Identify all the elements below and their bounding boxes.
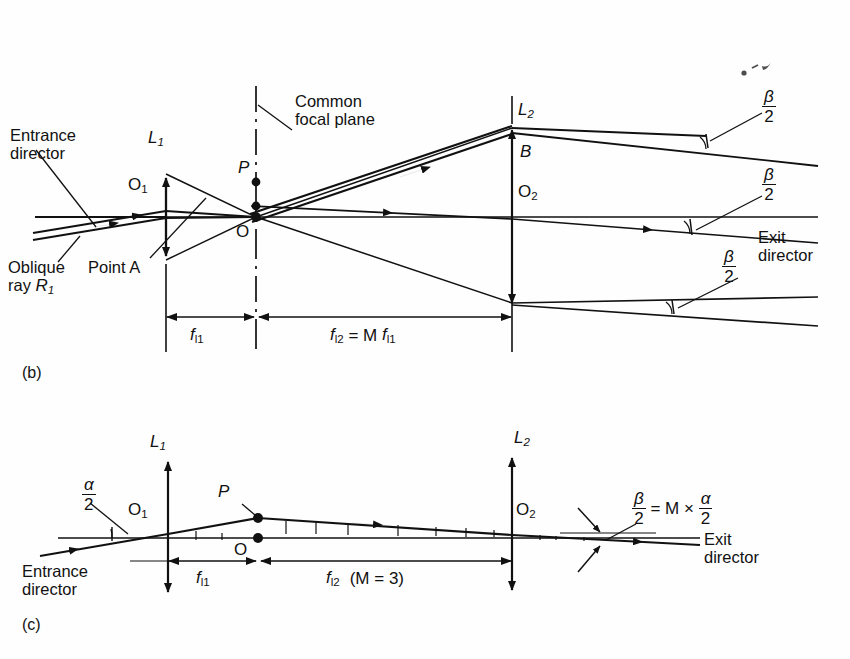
c-point-o-marker <box>253 533 263 543</box>
dim-label-fl2-b: fl2 = M fl1 <box>330 325 396 346</box>
beta-equals-m-alpha-label: β2 = M × α2 <box>632 490 712 527</box>
exit-director-label-b: Exit director <box>758 228 813 265</box>
c-beta-arrow-lower <box>578 546 600 572</box>
lens-l1-label-b: L1 <box>148 128 164 149</box>
lens-l1-label-c: L1 <box>150 432 166 453</box>
ray-l1-to-focus-lower <box>166 217 256 218</box>
panel-c-tag: (c) <box>22 616 41 634</box>
point-a-leader <box>150 198 206 258</box>
c-beta-arrow-upper <box>578 508 600 532</box>
point-p-label-b: P <box>238 158 249 177</box>
c-point-p-leader <box>242 504 255 515</box>
point-o-label-c: O <box>234 540 247 559</box>
beta-over-2-upper: β2 <box>762 88 776 125</box>
c-ray-l1-to-p <box>168 518 258 534</box>
exit-director-label-c: Exit director <box>704 530 759 567</box>
exit-top-angle-leader <box>710 113 762 141</box>
exit-top-ray <box>512 133 818 166</box>
beta-over-2-middle: β2 <box>762 166 776 203</box>
common-focal-plane-label: Common focal plane <box>295 92 375 129</box>
c-entrance-ray-arrow <box>52 549 78 554</box>
o1-label-b: O1 <box>128 175 148 196</box>
beta-over-2-lower: β2 <box>722 248 736 285</box>
lens-l2-label-c: L2 <box>514 428 530 449</box>
exit-top-reference <box>512 128 706 136</box>
point-p-ray-marker <box>252 202 261 211</box>
exit-bottom-angle-arc <box>666 302 672 314</box>
point-b-label: B <box>520 142 531 161</box>
point-a-label: Point A <box>88 258 140 276</box>
o2-label-c: O2 <box>516 500 536 521</box>
fan-lower-edge <box>256 217 512 303</box>
exit-top-angle-tick <box>706 134 708 148</box>
entrance-director-label-b: Entrance director <box>10 126 76 163</box>
panel-b-graphics <box>33 86 818 352</box>
oblique-ray-label: Oblique ray R1 <box>8 258 65 298</box>
scan-artifacts <box>741 62 771 76</box>
figure-canvas: Common focal plane Entrance director Obl… <box>0 0 850 659</box>
point-o-marker <box>251 212 261 222</box>
lens-l2-label-b: L2 <box>518 100 534 121</box>
point-p-marker <box>252 178 261 187</box>
c-ray-p-to-l2 <box>258 518 512 535</box>
exit-bottom-reference <box>512 297 818 303</box>
fan-upper-edge <box>256 128 512 217</box>
o2-label-b: O2 <box>518 182 538 203</box>
point-p-label-c: P <box>218 482 229 501</box>
alpha-over-2-label: α2 <box>82 476 96 513</box>
panel-b-tag: (b) <box>22 364 42 382</box>
exit-top-angle-arc <box>700 137 706 149</box>
dim-label-fl2-c: fl2(M = 3) <box>326 568 404 589</box>
o1-label-c: O1 <box>128 500 148 521</box>
expanded-pencil-upper <box>250 126 512 214</box>
dim-label-fl1-c: fl1 <box>196 568 210 589</box>
oblique-ray-subscript: 1 <box>48 285 54 297</box>
ray-l1-to-focus-upper <box>166 211 256 217</box>
entrance-director-label-c: Entrance director <box>22 562 88 599</box>
exit-middle-angle-leader <box>696 196 762 230</box>
exit-bottom-ray <box>512 305 818 326</box>
focal-plane-leader <box>258 105 292 130</box>
dim-label-fl1-b: fl1 <box>190 325 204 346</box>
expanded-pencil-arrow <box>400 167 430 177</box>
point-o-label-b: O <box>236 222 249 241</box>
oblique-ray-symbol: R <box>36 276 48 295</box>
l1-envelope-upper <box>166 174 256 217</box>
